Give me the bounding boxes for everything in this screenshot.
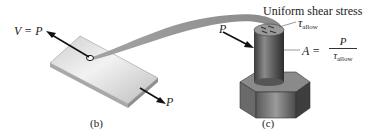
area-equation-fraction: P τallow: [329, 35, 357, 63]
area-denominator: τallow: [329, 50, 357, 63]
applied-force-label-b: P: [166, 96, 173, 108]
fraction-bar: [329, 48, 357, 49]
bolt: [240, 24, 310, 118]
applied-force-arrow-icon: [140, 88, 166, 104]
tau-leader-line: [279, 22, 296, 27]
caption-c: (c): [262, 118, 274, 129]
area-numerator: P: [329, 35, 357, 47]
tau-allow-label: τallow: [298, 17, 318, 31]
plate: [50, 36, 158, 108]
applied-force-label-c: P: [219, 23, 226, 35]
uniform-shear-stress-title: Uniform shear stress: [263, 5, 362, 17]
caption-b: (b): [90, 118, 103, 129]
shear-force-label: V = P: [14, 25, 43, 37]
area-equation-lhs: A =: [302, 45, 320, 57]
bolt-force-arrow-icon: [223, 32, 254, 48]
